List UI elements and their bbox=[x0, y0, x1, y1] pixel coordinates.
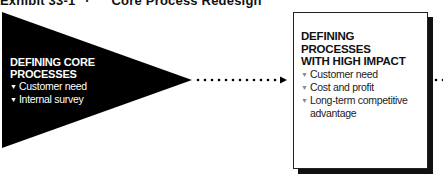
stage-items: ▼ Customer need ▼ Internal survey bbox=[10, 80, 160, 106]
item-label: Customer need bbox=[310, 68, 378, 81]
item-label: Cost and profit bbox=[310, 81, 374, 94]
stage-high-impact-box: DEFINING PROCESSES WITH HIGH IMPACT ▼ Cu… bbox=[293, 12, 428, 169]
stage-heading: DEFINING CORE PROCESSES bbox=[10, 56, 160, 80]
triangle-bullet-icon: ▼ bbox=[10, 80, 19, 93]
triangle-bullet-icon: ▼ bbox=[301, 68, 310, 81]
triangle-bullet-icon: ▼ bbox=[301, 94, 310, 107]
triangle-bullet-icon: ▼ bbox=[10, 93, 19, 106]
list-item: ▼ Cost and profit bbox=[301, 81, 426, 94]
item-label: Long-term competitive bbox=[310, 94, 408, 107]
list-item: ▼ Customer need bbox=[301, 68, 426, 81]
heading-line: DEFINING CORE bbox=[10, 56, 160, 68]
heading-line: DEFINING PROCESSES bbox=[301, 30, 426, 55]
item-label: Customer need bbox=[19, 80, 87, 93]
arrowhead-icon bbox=[280, 77, 287, 84]
item-label: advantage bbox=[310, 107, 356, 120]
list-item: ▼ Long-term competitive bbox=[301, 94, 426, 107]
heading-line: WITH HIGH IMPACT bbox=[301, 55, 426, 68]
list-item: ▼ Customer need bbox=[10, 80, 160, 93]
list-item: ▼ Internal survey bbox=[10, 93, 160, 106]
item-label: Internal survey bbox=[19, 93, 83, 106]
dotted-connector-continuation bbox=[435, 79, 443, 82]
stage-heading: DEFINING PROCESSES WITH HIGH IMPACT bbox=[301, 30, 426, 68]
list-item-continuation: advantage bbox=[301, 107, 426, 120]
dotted-connector-arrow bbox=[197, 77, 287, 84]
triangle-bullet-icon: ▼ bbox=[301, 81, 310, 94]
stage-core-processes: DEFINING CORE PROCESSES ▼ Customer need … bbox=[10, 56, 160, 106]
bullet-spacer bbox=[301, 107, 310, 120]
heading-line: PROCESSES bbox=[10, 68, 160, 80]
stage-high-impact: DEFINING PROCESSES WITH HIGH IMPACT ▼ Cu… bbox=[301, 30, 426, 119]
stage-items: ▼ Customer need ▼ Cost and profit ▼ Long… bbox=[301, 68, 426, 120]
